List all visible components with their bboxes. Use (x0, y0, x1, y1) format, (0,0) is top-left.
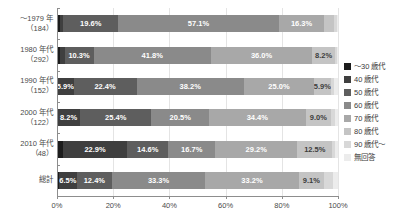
bar-segment: 9.0% (306, 109, 331, 126)
y-axis-label-line: 1990 年代 (0, 76, 53, 86)
legend-item[interactable]: ～30 歳代 (344, 60, 411, 73)
bar-segment (335, 109, 338, 126)
legend-label: 70 歳代 (354, 114, 378, 123)
bar-row: 5.9%22.4%38.2%25.0%5.9% (57, 78, 338, 95)
x-axis-line (57, 196, 339, 197)
y-axis-label: 2000 年代（122） (0, 108, 53, 128)
legend-item[interactable]: 90 歳代～ (344, 138, 411, 151)
y-axis-label: 1990 年代（152） (0, 76, 53, 96)
bar-segment: 36.0% (211, 47, 312, 64)
bar-segment: 57.1% (118, 15, 278, 32)
bar-row: 6.5%12.4%33.3%33.2%9.1% (57, 172, 338, 189)
bar-segment: 5.9% (314, 78, 331, 95)
legend-swatch-icon (344, 63, 351, 70)
bar-segment (337, 47, 338, 64)
stacked-bar: 8.2%25.4%20.5%34.4%9.0% (57, 109, 338, 126)
bar-segment: 29.2% (215, 141, 297, 158)
stacked-bar: 5.9%22.4%38.2%25.0%5.9% (57, 78, 338, 95)
bar-segment: 33.3% (112, 172, 206, 189)
x-axis-tick (226, 196, 227, 199)
bar-row: 8.2%25.4%20.5%34.4%9.0% (57, 109, 338, 126)
legend-label: ～30 歳代 (354, 62, 385, 71)
bar-segment: 41.8% (94, 47, 211, 64)
y-axis-label: 総計 (0, 175, 53, 185)
plot-area: 19.6%57.1%16.3%10.3%41.8%36.0%8.2%5.9%22… (57, 8, 338, 196)
y-axis-tick (57, 71, 60, 72)
stacked-bar: 10.3%41.8%36.0%8.2% (57, 47, 338, 64)
bar-segment: 10.3% (65, 47, 94, 64)
legend-label: 40 歳代 (354, 75, 378, 84)
legend-item[interactable]: 80 歳代 (344, 125, 411, 138)
stacked-bar: 6.5%12.4%33.3%33.2%9.1% (57, 172, 338, 189)
legend-label: 80 歳代 (354, 127, 378, 136)
bar-segment: 16.7% (168, 141, 215, 158)
bar-row: 10.3%41.8%36.0%8.2% (57, 47, 338, 64)
legend-item[interactable]: 40 歳代 (344, 73, 411, 86)
legend-label: 50 歳代 (354, 88, 378, 97)
x-axis-tick (113, 196, 114, 199)
stacked-bar: 19.6%57.1%16.3% (57, 15, 338, 32)
legend-label: 無回答 (354, 153, 375, 162)
legend-swatch-icon (344, 141, 351, 148)
legend-label: 60 歳代 (354, 101, 378, 110)
bar-segment: 8.2% (312, 47, 335, 64)
y-axis-tick (57, 102, 60, 103)
y-axis-label-count: （292） (0, 55, 53, 65)
legend-swatch-icon (344, 154, 351, 161)
y-axis-tick (57, 8, 60, 9)
legend-swatch-icon (344, 115, 351, 122)
x-axis-tick (282, 196, 283, 199)
y-axis-label-line: 2000 年代 (0, 108, 53, 118)
bar-segment: 20.5% (151, 109, 209, 126)
bar-segment: 33.2% (205, 172, 298, 189)
x-axis-tick-label: 60% (218, 201, 233, 210)
stacked-bar-chart: ～1979 年（184）1980 年代（292）1990 年代（152）2000… (0, 0, 411, 220)
y-axis-label-line: 1980 年代 (0, 45, 53, 55)
bar-segment: 19.6% (63, 15, 118, 32)
bar-segment: 22.9% (63, 141, 127, 158)
y-axis-label: 2010 年代（48） (0, 139, 53, 159)
bar-segment (335, 141, 338, 158)
stacked-bar: 22.9%14.6%16.7%29.2%12.5% (57, 141, 338, 158)
y-axis-label: ～1979 年（184） (0, 14, 53, 34)
y-axis-label-line: 総計 (0, 175, 53, 185)
x-axis-tick (338, 196, 339, 199)
x-axis-tick-label: 40% (162, 201, 177, 210)
bar-segment: 25.0% (244, 78, 314, 95)
bar-segment: 12.5% (297, 141, 332, 158)
bar-rows: 19.6%57.1%16.3%10.3%41.8%36.0%8.2%5.9%22… (57, 8, 338, 196)
y-axis-label-count: （184） (0, 24, 53, 34)
bar-segment: 5.9% (57, 78, 74, 95)
legend-item[interactable]: 70 歳代 (344, 112, 411, 125)
bar-segment: 9.1% (299, 172, 325, 189)
legend-swatch-icon (344, 128, 351, 135)
y-axis-tick (57, 39, 60, 40)
bar-segment: 12.4% (77, 172, 112, 189)
bar-segment (333, 172, 337, 189)
bar-segment: 8.2% (57, 109, 80, 126)
bar-row: 19.6%57.1%16.3% (57, 15, 338, 32)
legend-swatch-icon (344, 89, 351, 96)
y-axis-labels: ～1979 年（184）1980 年代（292）1990 年代（152）2000… (0, 8, 53, 196)
legend-label: 90 歳代～ (354, 140, 385, 149)
y-axis-tick (57, 196, 60, 197)
y-axis-label-count: （152） (0, 86, 53, 96)
bar-segment (337, 15, 338, 32)
x-axis-tick-label: 20% (106, 201, 121, 210)
y-axis-label-count: （48） (0, 149, 53, 159)
x-axis-tick (169, 196, 170, 199)
legend-item[interactable]: 無回答 (344, 151, 411, 164)
legend-item[interactable]: 60 歳代 (344, 99, 411, 112)
y-axis-label-line: ～1979 年 (0, 14, 53, 24)
bar-segment: 25.4% (80, 109, 151, 126)
legend-swatch-icon (344, 102, 351, 109)
bar-segment: 16.3% (279, 15, 325, 32)
bar-segment: 34.4% (209, 109, 306, 126)
gridline-100 (338, 8, 339, 196)
bar-segment (334, 78, 338, 95)
x-axis-tick-label: 100% (328, 201, 347, 210)
y-axis-tick (57, 133, 60, 134)
x-axis-tick-label: 0% (52, 201, 63, 210)
bar-row: 22.9%14.6%16.7%29.2%12.5% (57, 141, 338, 158)
legend-item[interactable]: 50 歳代 (344, 86, 411, 99)
